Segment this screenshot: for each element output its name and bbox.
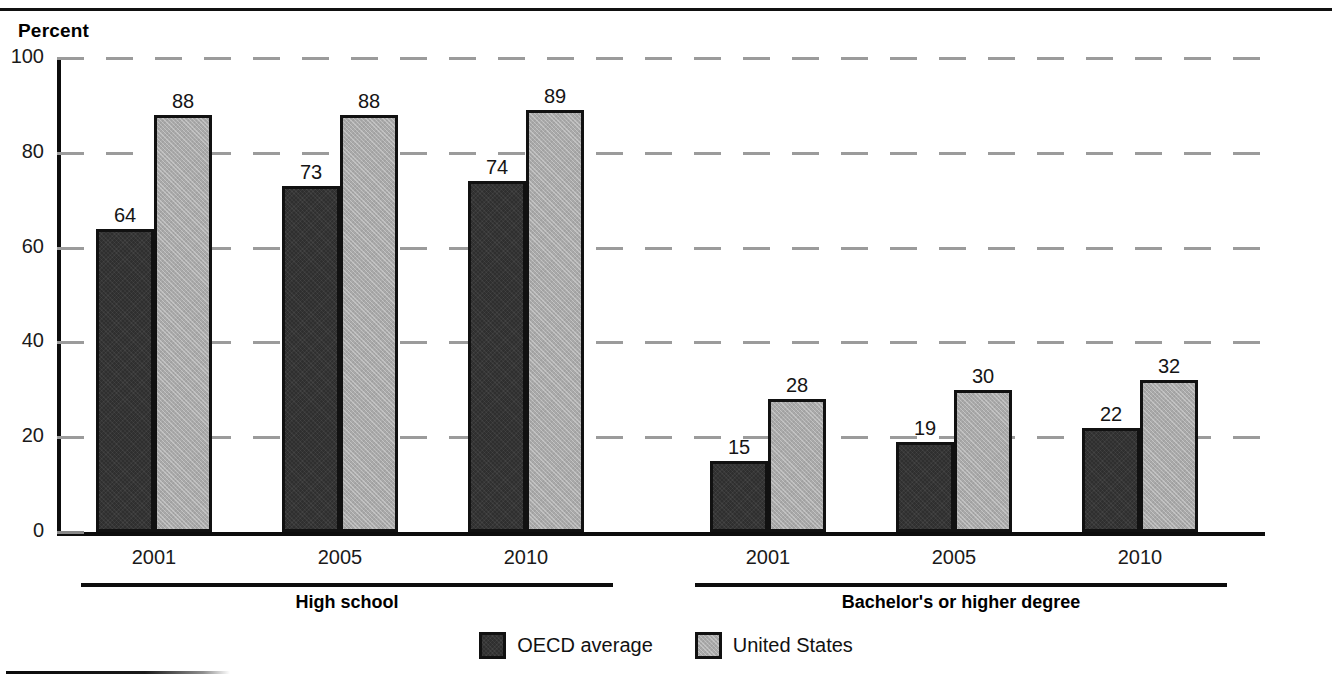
bar[interactable]: 22 (1082, 428, 1140, 532)
y-axis-tick-label: 80 (0, 140, 44, 163)
plot-area: 648873887489152819302232 (57, 58, 1265, 536)
bar-value-label: 22 (1100, 403, 1122, 426)
y-axis-line (57, 58, 61, 536)
bar-value-label: 73 (300, 161, 322, 184)
x-axis-tick-label: 2001 (746, 546, 791, 569)
y-axis-tick-label: 40 (0, 329, 44, 352)
group-label: High school (296, 592, 399, 613)
legend-label: OECD average (517, 634, 653, 657)
y-axis-title: Percent (18, 20, 89, 42)
x-axis-tick-label: 2005 (318, 546, 363, 569)
bar-value-label: 88 (358, 90, 380, 113)
legend-swatch-icon (479, 632, 506, 659)
bar[interactable]: 19 (896, 442, 954, 532)
bar-value-label: 28 (786, 374, 808, 397)
x-axis-tick-label: 2005 (932, 546, 977, 569)
bar-value-label: 30 (972, 365, 994, 388)
y-axis-tick-label: 20 (0, 424, 44, 447)
gridline (57, 152, 1265, 155)
bar[interactable]: 88 (154, 115, 212, 532)
x-axis-line (57, 532, 1265, 536)
bar-value-label: 88 (172, 90, 194, 113)
bar[interactable]: 89 (526, 110, 584, 532)
legend-swatch-icon (695, 632, 722, 659)
bar[interactable]: 88 (340, 115, 398, 532)
y-axis-tick-label: 60 (0, 235, 44, 258)
gridline (57, 247, 1265, 250)
bar-value-label: 64 (114, 204, 136, 227)
legend-label: United States (733, 634, 853, 657)
group-bracket-line (695, 583, 1227, 587)
bottom-divider-rule (6, 671, 230, 674)
group-label: Bachelor's or higher degree (842, 592, 1080, 613)
legend-item[interactable]: OECD average (479, 632, 653, 659)
bar[interactable]: 64 (96, 229, 154, 532)
y-axis-tick-label: 100 (0, 45, 44, 68)
y-axis-tick-label: 0 (0, 519, 44, 542)
y-tick-mark (57, 531, 84, 534)
chart-legend: OECD averageUnited States (0, 632, 1332, 659)
bar[interactable]: 32 (1140, 380, 1198, 532)
x-axis-tick-label: 2001 (132, 546, 177, 569)
x-axis-tick-label: 2010 (1118, 546, 1163, 569)
bar-value-label: 19 (914, 417, 936, 440)
group-bracket-line (81, 583, 613, 587)
bar-value-label: 74 (486, 156, 508, 179)
bar[interactable]: 15 (710, 461, 768, 532)
bar-value-label: 89 (544, 85, 566, 108)
legend-item[interactable]: United States (695, 632, 853, 659)
top-divider-rule (0, 8, 1332, 11)
bar[interactable]: 74 (468, 181, 526, 532)
bar[interactable]: 30 (954, 390, 1012, 532)
bar[interactable]: 73 (282, 186, 340, 532)
gridline (57, 57, 1265, 60)
x-axis-tick-label: 2010 (504, 546, 549, 569)
bar[interactable]: 28 (768, 399, 826, 532)
bar-value-label: 32 (1158, 355, 1180, 378)
gridline (57, 341, 1265, 344)
bar-value-label: 15 (728, 436, 750, 459)
chart-page: Percent 648873887489152819302232 0204060… (0, 0, 1332, 686)
